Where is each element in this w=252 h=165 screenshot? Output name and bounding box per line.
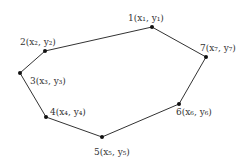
vertex-label-3: 3(x₃, y₃) [30,76,66,86]
vertex-point-1 [150,25,154,29]
vertex-point-4 [44,115,48,119]
vertex-point-2 [43,49,47,53]
vertex-label-6: 6(x₆, y₆) [176,107,212,117]
vertex-label-7: 7(x₇, y₇) [200,43,236,53]
vertex-group: 1(x₁, y₁)2(x₂, y₂)3(x₃, y₃)4(x₄, y₄)5(x₅… [18,13,236,157]
vertex-label-5: 5(x₅, y₅) [94,147,130,157]
vertex-point-5 [100,135,104,139]
vertex-point-3 [18,71,22,75]
vertex-label-1: 1(x₁, y₁) [128,13,164,23]
vertex-label-2: 2(x₂, y₂) [20,37,56,47]
vertex-point-7 [204,55,208,59]
polygon-diagram: 1(x₁, y₁)2(x₂, y₂)3(x₃, y₃)4(x₄, y₄)5(x₅… [0,0,252,165]
vertex-point-6 [177,102,181,106]
vertex-label-4: 4(x₄, y₄) [50,107,86,117]
diagram-svg: 1(x₁, y₁)2(x₂, y₂)3(x₃, y₃)4(x₄, y₄)5(x₅… [0,0,252,165]
